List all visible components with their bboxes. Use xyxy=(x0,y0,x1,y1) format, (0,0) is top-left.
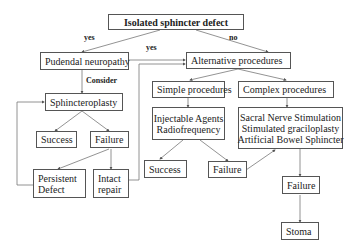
node-complex-options: Sacral Nerve Stimulation Stimulated grac… xyxy=(238,107,343,149)
node-label-line2: Defect xyxy=(38,184,65,195)
node-label: Pudendal neuropathy xyxy=(45,56,130,67)
option-radiofrequency: Radiofrequency xyxy=(157,124,221,135)
node-label: Failure xyxy=(95,134,123,145)
option-sacral-nerve-stimulation: Sacral Nerve Stimulation xyxy=(240,112,341,123)
node-label: Complex procedures xyxy=(243,84,326,95)
node-persistent-defect: Persistent Defect xyxy=(33,169,86,198)
option-stimulated-graciloplasty: Stimulated graciloplasty xyxy=(242,123,339,134)
node-label: Failure xyxy=(213,164,241,175)
node-label-line1: Persistent xyxy=(38,173,77,184)
edge-label-yes-middle: yes xyxy=(146,43,157,52)
edge-label-yes-left: yes xyxy=(84,33,95,42)
node-pudendal-neuropathy: Pudendal neuropathy xyxy=(40,52,129,70)
node-label-line2: repair xyxy=(98,184,121,195)
node-label-line1: Intact xyxy=(98,173,121,184)
option-injectable-agents: Injectable Agents xyxy=(154,113,224,124)
node-simple-procedures: Simple procedures xyxy=(152,81,225,98)
node-label: Simple procedures xyxy=(157,84,232,95)
node-sphincteroplasty-success: Success xyxy=(36,131,77,148)
node-simple-success: Success xyxy=(144,160,187,178)
node-alternative-procedures: Alternative procedures xyxy=(186,52,291,69)
node-intact-repair: Intact repair xyxy=(93,169,129,198)
node-isolated-sphincter-defect: Isolated sphincter defect xyxy=(108,14,244,30)
node-label: Success xyxy=(149,164,181,175)
node-simple-options: Injectable Agents Radiofrequency xyxy=(152,107,225,140)
node-label: Sphincteroplasty xyxy=(50,97,117,108)
node-label: Isolated sphincter defect xyxy=(124,17,228,28)
edge-label-no: no xyxy=(229,33,237,42)
node-complex-failure: Failure xyxy=(282,176,320,194)
node-sphincteroplasty-failure: Failure xyxy=(90,131,129,148)
node-label: Alternative procedures xyxy=(191,55,282,66)
node-stoma: Stoma xyxy=(281,222,319,240)
node-label: Success xyxy=(41,134,73,145)
node-label: Failure xyxy=(287,180,315,191)
node-sphincteroplasty: Sphincteroplasty xyxy=(45,93,123,111)
node-simple-failure: Failure xyxy=(208,161,247,178)
option-artificial-bowel-sphincter: Artificial Bowel Sphincter xyxy=(237,134,343,145)
node-label: Stoma xyxy=(286,226,312,237)
node-complex-procedures: Complex procedures xyxy=(238,81,334,98)
edge-label-consider: Consider xyxy=(86,76,117,85)
